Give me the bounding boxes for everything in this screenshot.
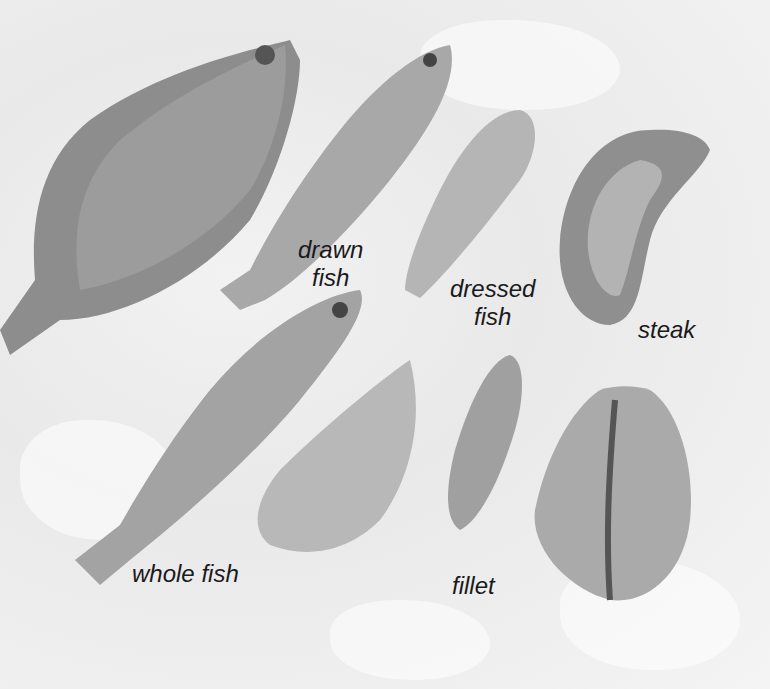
label-dressed-fish: dressed fish [450,275,535,330]
fish-illustrations [0,0,770,689]
label-dressed-fish-line2: fish [450,303,535,331]
label-dressed-fish-line1: dressed [450,275,535,303]
label-drawn-fish-line1: drawn [298,236,363,264]
label-fillet: fillet [452,572,495,600]
label-drawn-fish-line2: fish [298,264,363,292]
fish-forms-photo: drawn fish dressed fish steak whole fish… [0,0,770,689]
label-steak: steak [638,316,695,344]
flatfish [0,40,300,355]
fillet-skin [535,386,691,600]
label-drawn-fish: drawn fish [298,236,363,291]
label-whole-fish: whole fish [132,560,239,588]
fillet-strip [448,355,522,530]
fish-steak [560,130,710,325]
dressed-fish [405,110,535,298]
